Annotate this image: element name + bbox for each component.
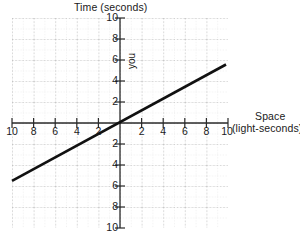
y-tick-label-6: 6: [98, 54, 118, 65]
x-tick-label-neg4: 4: [69, 126, 85, 137]
y-tick-label-2: 2: [98, 96, 118, 107]
x-tick-label-neg2: 2: [90, 126, 106, 137]
y-tick-label-8: 8: [98, 33, 118, 44]
y-tick-label-neg4: 4: [98, 159, 118, 170]
y-tick-label-neg8: 8: [98, 201, 118, 212]
y-tick-label-neg6: 6: [98, 180, 118, 191]
x-tick-label-6: 6: [177, 126, 193, 137]
x-axis-title-line2: (light-seconds): [232, 122, 300, 134]
x-tick-label-neg6: 6: [47, 126, 63, 137]
worldline-annotation-you: you: [118, 47, 146, 75]
x-tick-label-10: 10: [219, 126, 235, 137]
x-tick-label-2: 2: [134, 126, 150, 137]
y-tick-label-neg2: 2: [98, 138, 118, 149]
x-axis-title-line1: Space: [238, 110, 300, 122]
y-tick-label-4: 4: [98, 75, 118, 86]
worldline-annotation-text: you: [127, 46, 137, 76]
y-tick-label-10: 10: [98, 12, 118, 23]
x-tick-label-neg8: 8: [26, 126, 42, 137]
x-tick-label-4: 4: [155, 126, 171, 137]
x-tick-label-8: 8: [198, 126, 214, 137]
x-tick-label-neg10: 10: [4, 126, 20, 137]
spacetime-diagram-figure: Time (seconds) Space (light-seconds) you…: [0, 0, 300, 241]
y-tick-label-neg10: 10: [96, 222, 118, 233]
x-axis-title: Space (light-seconds): [232, 110, 300, 134]
